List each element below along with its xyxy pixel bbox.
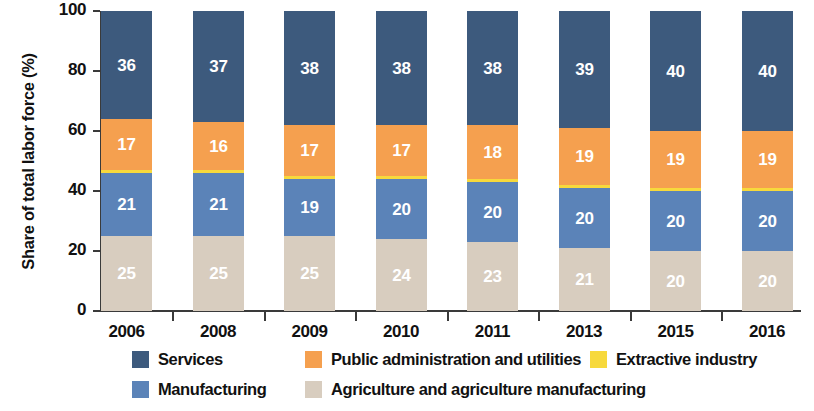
bar-value-label: 19 — [666, 151, 684, 168]
legend-swatch-icon — [305, 351, 322, 368]
bar-segment-2016-agriculture-and-agriculture-manufacturing: 20 — [742, 251, 793, 311]
bar-2011: 23201838 — [467, 11, 518, 311]
y-tick-label: 100 — [34, 0, 86, 20]
legend-item-extractive-industry[interactable]: Extractive industry — [590, 351, 757, 368]
legend-item-manufacturing[interactable]: Manufacturing — [132, 381, 266, 398]
bar-segment-2015-services: 40 — [650, 11, 701, 131]
legend-swatch-icon — [132, 381, 149, 398]
stacked-bar-chart: Share of total labor force (%) 020406080… — [0, 0, 814, 411]
bar-value-label: 24 — [392, 267, 410, 284]
legend-swatch-icon — [132, 351, 149, 368]
x-tick-mark — [447, 312, 449, 321]
bar-value-label: 17 — [300, 142, 318, 159]
bar-value-label: 37 — [209, 58, 227, 75]
bar-value-label: 19 — [300, 199, 318, 216]
bar-value-label: 21 — [117, 196, 135, 213]
bar-segment-2011-agriculture-and-agriculture-manufacturing: 23 — [467, 242, 518, 311]
y-tick-label: 60 — [34, 120, 86, 140]
bar-segment-2009-services: 38 — [284, 11, 335, 125]
legend-swatch-icon — [590, 351, 607, 368]
x-tick-mark — [630, 312, 632, 321]
x-tick-label-2016: 2016 — [727, 322, 807, 342]
y-tick-mark — [93, 190, 100, 192]
bar-value-label: 21 — [209, 196, 227, 213]
legend-item-services[interactable]: Services — [132, 351, 223, 368]
x-tick-label-2008: 2008 — [178, 322, 258, 342]
bar-value-label: 17 — [117, 136, 135, 153]
bar-value-label: 20 — [483, 204, 501, 221]
y-axis-title: Share of total labor force (%) — [19, 12, 38, 312]
bar-segment-2015-agriculture-and-agriculture-manufacturing: 20 — [650, 251, 701, 311]
bar-value-label: 20 — [666, 213, 684, 230]
chart-legend: ServicesPublic administration and utilit… — [0, 349, 814, 409]
y-tick-mark — [93, 130, 100, 132]
bar-segment-2008-extractive-industry — [193, 170, 244, 173]
legend-swatch-icon — [305, 381, 322, 398]
legend-item-agriculture-and-agriculture-manufacturing[interactable]: Agriculture and agriculture manufacturin… — [305, 381, 646, 398]
x-tick-mark — [538, 312, 540, 321]
bar-value-label: 17 — [392, 142, 410, 159]
bar-value-label: 19 — [575, 148, 593, 165]
bar-segment-2008-services: 37 — [193, 11, 244, 122]
bar-segment-2015-public-administration-and-utilities: 19 — [650, 131, 701, 188]
bar-segment-2006-services: 36 — [101, 11, 152, 119]
bar-segment-2013-manufacturing: 20 — [559, 188, 610, 248]
bar-value-label: 21 — [575, 271, 593, 288]
bar-value-label: 25 — [300, 265, 318, 282]
y-tick-mark — [93, 310, 100, 312]
bar-segment-2009-extractive-industry — [284, 176, 335, 179]
bar-2013: 21201939 — [559, 11, 610, 311]
bar-segment-2009-public-administration-and-utilities: 17 — [284, 125, 335, 176]
bar-2010: 24201738 — [376, 11, 427, 311]
legend-label: Manufacturing — [158, 381, 266, 398]
bar-segment-2011-extractive-industry — [467, 179, 518, 182]
bar-segment-2009-manufacturing: 19 — [284, 179, 335, 236]
x-tick-mark — [172, 312, 174, 321]
x-tick-label-2010: 2010 — [361, 322, 441, 342]
legend-label: Services — [158, 351, 223, 368]
y-tick-label: 0 — [34, 300, 86, 320]
y-tick-label: 80 — [34, 60, 86, 80]
bar-segment-2010-agriculture-and-agriculture-manufacturing: 24 — [376, 239, 427, 311]
bar-value-label: 40 — [666, 63, 684, 80]
bar-segment-2006-extractive-industry — [101, 170, 152, 173]
bar-segment-2013-public-administration-and-utilities: 19 — [559, 128, 610, 185]
bar-2009: 25191738 — [284, 11, 335, 311]
bar-segment-2013-services: 39 — [559, 11, 610, 128]
bar-value-label: 40 — [758, 63, 776, 80]
bar-segment-2006-manufacturing: 21 — [101, 173, 152, 236]
bar-2006: 25211736 — [101, 11, 152, 311]
bar-segment-2011-public-administration-and-utilities: 18 — [467, 125, 518, 179]
bar-segment-2013-extractive-industry — [559, 185, 610, 188]
bar-segment-2010-manufacturing: 20 — [376, 179, 427, 239]
bar-value-label: 18 — [483, 144, 501, 161]
bar-value-label: 20 — [575, 210, 593, 227]
bar-value-label: 23 — [483, 268, 501, 285]
bar-2015: 20201940 — [650, 11, 701, 311]
bar-segment-2015-extractive-industry — [650, 188, 701, 191]
bar-value-label: 38 — [483, 60, 501, 77]
x-tick-label-2009: 2009 — [270, 322, 350, 342]
bar-segment-2016-manufacturing: 20 — [742, 191, 793, 251]
x-tick-mark — [264, 312, 266, 321]
bar-value-label: 25 — [117, 265, 135, 282]
bar-value-label: 20 — [758, 273, 776, 290]
legend-label: Extractive industry — [616, 351, 757, 368]
bar-value-label: 38 — [392, 60, 410, 77]
bar-value-label: 20 — [758, 213, 776, 230]
bar-segment-2016-extractive-industry — [742, 188, 793, 191]
x-tick-label-2015: 2015 — [636, 322, 716, 342]
bar-segment-2015-manufacturing: 20 — [650, 191, 701, 251]
legend-label: Public administration and utilities — [331, 351, 581, 368]
y-tick-mark — [93, 10, 100, 12]
bar-segment-2006-public-administration-and-utilities: 17 — [101, 119, 152, 170]
bar-segment-2011-manufacturing: 20 — [467, 182, 518, 242]
legend-item-public-administration-and-utilities[interactable]: Public administration and utilities — [305, 351, 581, 368]
x-tick-label-2006: 2006 — [87, 322, 167, 342]
bar-segment-2010-services: 38 — [376, 11, 427, 125]
bar-segment-2016-public-administration-and-utilities: 19 — [742, 131, 793, 188]
bar-2016: 20201940 — [742, 11, 793, 311]
x-tick-label-2011: 2011 — [453, 322, 533, 342]
y-tick-mark — [93, 250, 100, 252]
bar-segment-2016-services: 40 — [742, 11, 793, 131]
